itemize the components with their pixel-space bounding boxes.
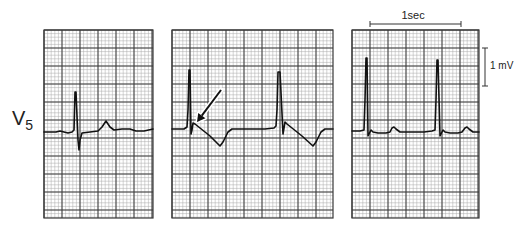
voltage-scale-label: 1 mV <box>490 60 513 71</box>
ecg-svg <box>0 0 527 230</box>
panel-2 <box>172 30 333 218</box>
time-scale-label: 1sec <box>402 9 425 21</box>
lead-label-main: V <box>12 107 25 129</box>
panel-1 <box>44 30 153 218</box>
panel-3 <box>352 30 479 218</box>
ecg-panels <box>44 30 479 218</box>
ecg-figure: V5 1sec 1 mV <box>0 0 527 230</box>
lead-label-v5: V5 <box>12 108 33 132</box>
lead-label-subscript: 5 <box>25 117 33 133</box>
